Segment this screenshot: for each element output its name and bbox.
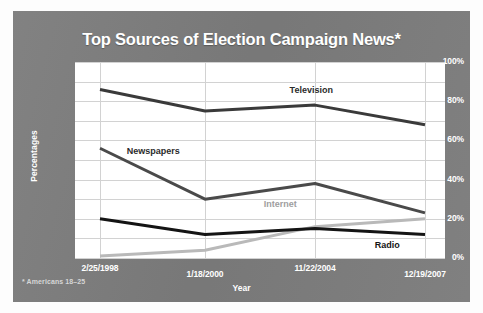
y-axis-label: Percentages <box>29 111 39 201</box>
series-label-newspapers: Newspapers <box>127 146 180 156</box>
gridline-horizontal <box>75 258 445 259</box>
series-label-internet: Internet <box>264 199 297 209</box>
chart-figure: Top Sources of Election Campaign News* P… <box>13 11 470 302</box>
chart-title: Top Sources of Election Campaign News* <box>13 30 470 49</box>
y-axis-tick: 0% <box>408 252 470 262</box>
series-line-internet <box>100 219 425 256</box>
chart-footnote: * Americans 18–25 <box>22 278 85 285</box>
x-axis-tick: 1/18/2000 <box>160 269 250 279</box>
y-axis-tick: 60% <box>408 134 470 144</box>
x-axis-tick: 11/22/2004 <box>270 263 360 273</box>
series-label-television: Television <box>290 85 333 95</box>
series-label-radio: Radio <box>375 240 400 250</box>
y-axis-tick: 40% <box>408 174 470 184</box>
series-lines <box>75 62 445 258</box>
x-axis-tick: 12/19/2007 <box>380 269 470 279</box>
series-line-television <box>100 89 425 124</box>
y-axis-tick: 80% <box>408 95 470 105</box>
x-axis-tick: 2/25/1998 <box>55 263 145 273</box>
y-axis-tick: 20% <box>408 213 470 223</box>
plot-area <box>75 62 445 258</box>
y-axis-tick: 100% <box>408 56 470 66</box>
series-line-newspapers <box>100 148 425 213</box>
